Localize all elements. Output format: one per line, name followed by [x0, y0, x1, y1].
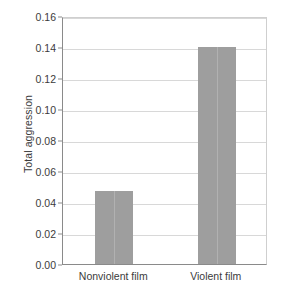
y-axis-tick-label: 0.14	[18, 42, 56, 54]
y-axis-tick-label: 0.10	[18, 104, 56, 116]
bar-nonviolent-film	[95, 191, 133, 264]
y-axis-tick-label: 0.06	[18, 166, 56, 178]
y-axis-tick-label: 0.12	[18, 73, 56, 85]
y-axis-tick-mark	[58, 265, 62, 266]
y-axis-tick-label: 0.04	[18, 197, 56, 209]
y-axis-tick-mark	[58, 48, 62, 49]
y-axis-tick-labels: 0.160.140.120.100.080.060.040.020.00	[18, 17, 56, 265]
y-axis-tick-mark	[58, 141, 62, 142]
y-axis-tick-label: 0.16	[18, 11, 56, 23]
y-axis-tick-label: 0.00	[18, 259, 56, 271]
x-axis-tick-label: Violent film	[190, 270, 241, 282]
y-axis-tick-mark	[58, 17, 62, 18]
y-axis-tick-label: 0.08	[18, 135, 56, 147]
y-axis-tick-mark	[58, 203, 62, 204]
gridline	[63, 265, 266, 266]
bar-violent-film	[198, 47, 236, 264]
y-axis-tick-mark	[58, 172, 62, 173]
x-axis-tick-labels: Nonviolent filmViolent film	[62, 270, 267, 290]
bar-series	[63, 18, 266, 264]
bar-seam-line	[217, 47, 218, 264]
y-axis-tick-mark	[58, 110, 62, 111]
x-axis-tick-label: Nonviolent film	[79, 270, 148, 282]
y-axis-tick-label: 0.02	[18, 228, 56, 240]
bar-seam-line	[114, 191, 115, 264]
plot-area	[62, 17, 267, 265]
y-axis-tick-mark	[58, 79, 62, 80]
bar-chart: Total aggression 0.160.140.120.100.080.0…	[0, 0, 288, 298]
y-axis-tick-mark	[58, 234, 62, 235]
